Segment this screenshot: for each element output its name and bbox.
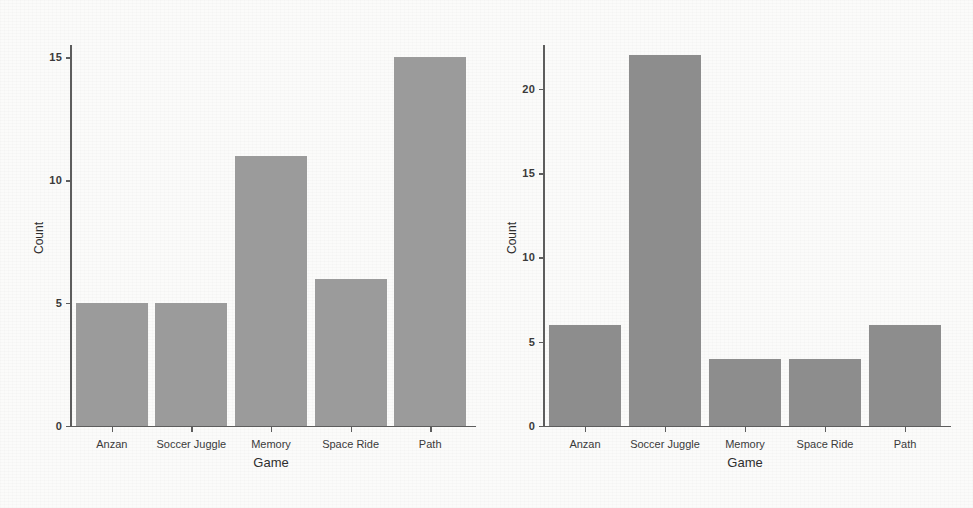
y-tick-label: 20 [522,83,535,95]
bar [629,55,701,426]
y-tick-label: 0 [529,420,535,432]
x-tick-label: Memory [725,438,765,450]
x-axis-title-left: Game [253,455,288,470]
bar [155,303,227,426]
y-axis-title-left: Count [32,221,46,253]
x-tick-mark [271,427,272,432]
x-tick-label: Path [419,438,442,450]
x-tick-mark [112,427,113,432]
y-tick-mark [66,303,71,304]
y-tick-label: 15 [49,51,62,63]
x-tick-mark [745,427,746,432]
y-tick-label: 5 [529,336,535,348]
y-tick-label: 10 [522,251,535,263]
y-axis-line [543,45,545,427]
x-tick-label: Space Ride [322,438,379,450]
y-tick-label: 5 [56,297,62,309]
bar [789,359,861,426]
bar [709,359,781,426]
right-bar-chart-panel: Count 05101520AnzanSoccer JuggleMemorySp… [487,0,973,508]
x-axis-line [543,426,951,427]
bar [549,325,621,426]
x-axis-line [70,426,476,427]
plot-area-left: 051015AnzanSoccer JuggleMemorySpace Ride… [72,45,470,426]
x-tick-label: Path [894,438,917,450]
x-tick-mark [665,427,666,432]
bar [235,156,307,426]
y-axis-title-right: Count [505,221,519,253]
plot-area-right: 05101520AnzanSoccer JuggleMemorySpace Ri… [545,45,945,426]
bar [869,325,941,426]
y-axis-line [70,45,72,427]
bar [76,303,148,426]
y-tick-label: 15 [522,167,535,179]
bar [315,279,387,426]
y-tick-mark [66,57,71,58]
y-tick-mark [539,426,544,427]
x-tick-label: Soccer Juggle [630,438,700,450]
x-tick-label: Memory [251,438,291,450]
y-tick-mark [66,180,71,181]
y-tick-mark [539,173,544,174]
x-tick-label: Space Ride [797,438,854,450]
x-tick-mark [825,427,826,432]
bar [394,57,466,426]
x-tick-mark [351,427,352,432]
x-tick-mark [585,427,586,432]
y-tick-mark [539,89,544,90]
x-tick-mark [430,427,431,432]
x-axis-title-right: Game [727,455,762,470]
y-tick-label: 0 [56,420,62,432]
y-tick-mark [539,257,544,258]
figure-canvas: Count 051015AnzanSoccer JuggleMemorySpac… [0,0,973,508]
x-tick-label: Anzan [569,438,600,450]
y-tick-mark [66,426,71,427]
y-tick-label: 10 [49,174,62,186]
y-tick-mark [539,342,544,343]
left-bar-chart-panel: Count 051015AnzanSoccer JuggleMemorySpac… [0,0,487,508]
x-tick-label: Anzan [96,438,127,450]
x-tick-mark [905,427,906,432]
x-tick-mark [191,427,192,432]
x-tick-label: Soccer Juggle [157,438,227,450]
